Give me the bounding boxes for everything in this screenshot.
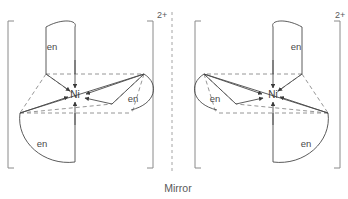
arc-en-bottom xyxy=(20,113,75,162)
left-coordination-arrows xyxy=(20,60,144,125)
charge-label-right: 2+ xyxy=(335,10,345,20)
metal-label-right: Ni xyxy=(268,89,277,100)
arc-en-right xyxy=(131,74,154,110)
arc-en-top xyxy=(273,21,302,27)
enantiomer-pair-diagram: Ni en en en 2+ Mirror xyxy=(0,0,348,199)
left-enantiomer-group: Ni en en en 2+ xyxy=(8,10,167,168)
ligand-label-left-right: en xyxy=(128,93,139,104)
arc-en-top xyxy=(46,21,75,27)
metal-label-left: Ni xyxy=(70,89,79,100)
diagram-canvas: Ni en en en 2+ Mirror xyxy=(0,0,348,199)
ligand-label-right-top: en xyxy=(291,41,302,52)
arc-en-right xyxy=(194,74,217,110)
charge-label-left: 2+ xyxy=(157,10,167,20)
ligand-label-right-left: en xyxy=(210,93,221,104)
ligand-label-right-bottom: en xyxy=(301,138,312,149)
ligand-label-left-top: en xyxy=(47,41,58,52)
right-coordination-arrows xyxy=(204,60,328,125)
ligand-label-left-bottom: en xyxy=(37,138,48,149)
right-enantiomer-labels: Ni en en en 2+ xyxy=(210,10,346,149)
mirror-label: Mirror xyxy=(164,182,192,194)
